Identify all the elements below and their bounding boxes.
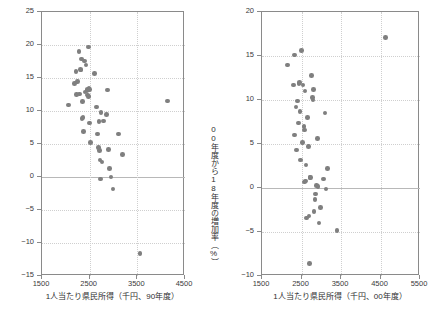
data-point: [88, 140, 93, 145]
data-point: [101, 119, 106, 124]
data-point: [318, 205, 323, 210]
y-axis-tick-label: −15: [1, 271, 34, 279]
data-point: [87, 87, 92, 92]
x-axis-tick-label: 4500: [164, 280, 204, 288]
gridline-vertical: [137, 12, 138, 276]
y-axis-tick-label: 0: [1, 172, 34, 180]
data-point: [79, 68, 84, 73]
data-point: [317, 221, 322, 226]
data-point: [104, 112, 109, 117]
data-point: [77, 92, 82, 97]
x-axis-tick-label: 2500: [281, 280, 321, 288]
data-point: [98, 177, 103, 182]
y-axis-tick-label: 25: [1, 7, 34, 15]
data-point: [301, 83, 306, 88]
y-axis-tick-label: 5: [1, 139, 34, 147]
data-point: [109, 175, 114, 180]
gridline-horizontal: [42, 111, 185, 112]
data-point: [87, 121, 92, 126]
gridline-horizontal: [42, 45, 185, 46]
y-axis-tick: [37, 11, 41, 12]
data-point: [106, 147, 111, 152]
data-point: [303, 179, 308, 184]
data-point: [306, 144, 311, 149]
data-point: [383, 35, 388, 40]
y-axis-tick: [257, 11, 261, 12]
x-axis-tick-label: 5500: [399, 280, 439, 288]
data-point: [298, 109, 303, 114]
x-axis-tick-label: 4500: [360, 280, 400, 288]
y-axis-tick: [257, 231, 261, 232]
y-axis-tick-label: 20: [221, 7, 254, 15]
data-point: [321, 177, 326, 182]
data-point: [66, 103, 71, 108]
data-point: [86, 94, 91, 99]
data-point: [307, 214, 312, 219]
right-plot-area: [261, 11, 419, 275]
data-point: [100, 160, 105, 165]
y-axis-tick-label: −5: [221, 227, 254, 235]
y-axis-tick-label: 10: [221, 95, 254, 103]
data-point: [323, 111, 328, 116]
y-axis-tick-label: 20: [1, 40, 34, 48]
gridline-horizontal: [42, 177, 185, 178]
x-axis-tick-label: 1500: [21, 280, 61, 288]
y-axis-tick-label: 15: [1, 73, 34, 81]
y-axis-tick: [257, 55, 261, 56]
y-axis-tick: [37, 44, 41, 45]
gridline-vertical: [381, 12, 382, 276]
data-point: [295, 99, 300, 104]
data-point: [309, 73, 314, 78]
data-point: [313, 197, 318, 202]
y-axis-tick: [37, 209, 41, 210]
data-point: [97, 148, 102, 153]
data-point: [325, 166, 330, 171]
data-point: [111, 187, 116, 192]
y-axis-tick-label: −10: [221, 271, 254, 279]
y-axis-tick: [37, 77, 41, 78]
gridline-horizontal: [42, 144, 185, 145]
data-point: [305, 115, 310, 120]
data-point: [335, 228, 340, 233]
left-x-axis-title: 1人当たり県民所得（千円、90年度）: [21, 292, 204, 302]
data-point: [95, 132, 100, 137]
y-axis-tick: [37, 176, 41, 177]
y-axis-tick: [37, 143, 41, 144]
y-axis-tick: [257, 99, 261, 100]
y-axis-tick: [257, 143, 261, 144]
data-point: [138, 251, 143, 256]
data-point: [120, 152, 125, 157]
gridline-horizontal: [42, 210, 185, 211]
gridline-horizontal: [42, 243, 185, 244]
data-point: [294, 148, 299, 153]
y-axis-tick-label: 0: [221, 183, 254, 191]
right-x-axis-title: 1人当たり県民所得（千円、00年度）: [241, 292, 439, 302]
data-point: [311, 98, 316, 103]
data-point: [285, 63, 290, 68]
data-point: [291, 83, 296, 88]
x-axis-tick-label: 2500: [69, 280, 109, 288]
data-point: [80, 99, 85, 104]
right-chart-panel: 00年度から18年度の増加率（%） 1人当たり県民所得（千円、00年度） 201…: [219, 0, 438, 309]
right-y-axis-title: 00年度から18年度の増加率（%）: [209, 125, 218, 275]
gridline-vertical: [341, 12, 342, 276]
data-point: [77, 49, 82, 54]
scatter-plot-figure: 90年度から00年度の増加率（%） 1人当たり県民所得（千円、90年度） 252…: [0, 0, 439, 309]
data-point: [292, 53, 297, 58]
data-point: [324, 187, 329, 192]
data-point: [303, 89, 308, 94]
y-axis-tick-label: −5: [1, 205, 34, 213]
y-axis-tick: [37, 242, 41, 243]
data-point: [84, 63, 89, 68]
data-point: [81, 129, 86, 134]
data-point: [92, 71, 97, 76]
data-point: [316, 184, 321, 189]
data-point: [302, 128, 307, 133]
gridline-horizontal: [42, 78, 185, 79]
y-axis-tick-label: 5: [221, 139, 254, 147]
data-point: [299, 48, 304, 53]
x-axis-tick-label: 3500: [116, 280, 156, 288]
data-point: [105, 88, 110, 93]
data-point: [304, 163, 309, 168]
left-plot-area: [41, 11, 184, 275]
